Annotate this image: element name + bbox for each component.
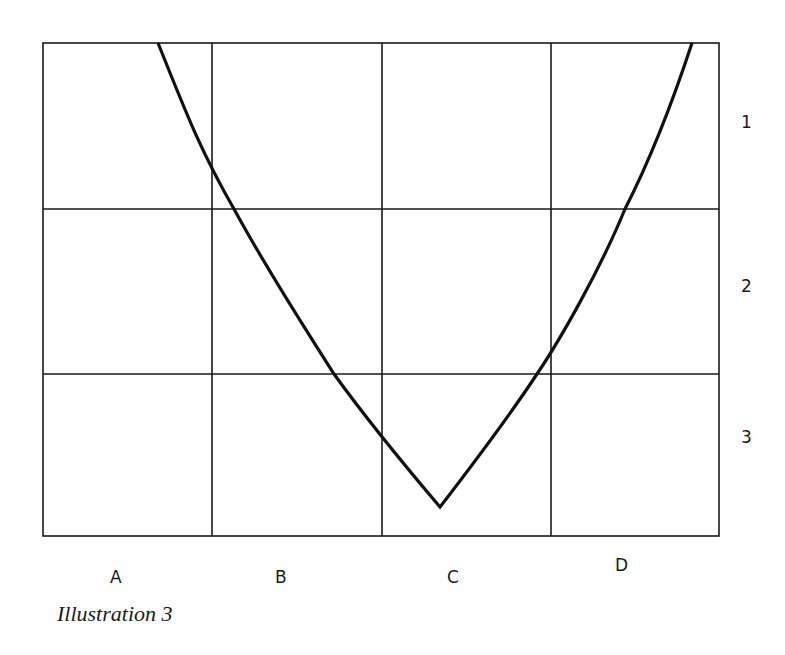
row-label-3: 3: [741, 427, 752, 447]
row-label-2: 2: [741, 276, 752, 296]
grid-lines: [43, 43, 719, 536]
v-curve: [158, 43, 692, 507]
row-label-1: 1: [741, 112, 752, 132]
figure-caption: Illustration 3: [57, 601, 173, 627]
grid-border: [43, 43, 719, 536]
column-label-d: D: [615, 555, 628, 575]
column-label-b: B: [275, 567, 287, 587]
column-label-a: A: [110, 567, 122, 587]
grid-diagram: [0, 0, 785, 655]
column-label-c: C: [447, 567, 459, 587]
